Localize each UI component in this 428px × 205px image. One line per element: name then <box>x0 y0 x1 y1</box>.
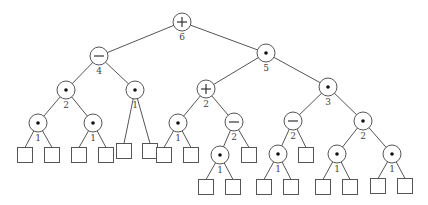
operator-node-dot: 1 <box>269 145 287 174</box>
leaf-square <box>45 148 60 163</box>
operator-node-plus: 6 <box>173 13 191 42</box>
dot-icon <box>176 121 180 125</box>
dot-icon <box>91 121 95 125</box>
node-count-label: 6 <box>179 32 185 42</box>
node-count-label: 2 <box>63 100 69 110</box>
operator-node-dot: 1 <box>383 145 401 174</box>
tree-edge <box>266 53 328 87</box>
node-count-label: 1 <box>334 164 340 174</box>
node-count-label: 2 <box>290 131 296 141</box>
dot-icon <box>264 51 268 55</box>
leaf-square <box>18 148 33 163</box>
operator-node-dot: 2 <box>354 112 372 141</box>
tree-edge <box>206 53 266 89</box>
tree-edge <box>182 22 266 53</box>
leaf-square <box>343 180 358 195</box>
dot-icon <box>276 152 280 156</box>
node-count-label: 3 <box>325 97 331 107</box>
operator-node-dot: 5 <box>257 44 275 73</box>
dot-icon <box>36 121 40 125</box>
leaf-square <box>316 180 331 195</box>
operator-node-dot: 2 <box>57 81 75 110</box>
dot-icon <box>361 119 365 123</box>
leaf-square <box>299 148 314 163</box>
dot-icon <box>64 88 68 92</box>
node-count-label: 1 <box>35 133 41 143</box>
dot-icon <box>326 85 330 89</box>
leaf-square <box>157 148 172 163</box>
leaf-square <box>284 180 299 195</box>
operator-node-dot: 1 <box>29 114 47 143</box>
leaf-square <box>184 148 199 163</box>
tree-edge <box>99 22 182 56</box>
node-count-label: 2 <box>360 131 366 141</box>
operator-node-minus: 2 <box>284 112 302 141</box>
operator-node-dot: 1 <box>211 146 229 175</box>
node-count-label: 5 <box>263 63 269 73</box>
dot-icon <box>218 153 222 157</box>
operator-node-dot: 1 <box>84 114 102 143</box>
operator-node-dot: 3 <box>319 78 337 107</box>
leaf-square <box>99 148 114 163</box>
operator-node-plus: 2 <box>197 80 215 109</box>
expression-tree-diagram: 64521231112221111 <box>0 0 428 205</box>
node-count-label: 1 <box>90 133 96 143</box>
operator-node-dot: 1 <box>169 114 187 143</box>
leaf-square <box>398 179 413 194</box>
node-count-label: 1 <box>175 133 181 143</box>
leaf-square <box>226 180 241 195</box>
operator-node-dot: 1 <box>328 145 346 174</box>
dot-icon <box>390 152 394 156</box>
node-count-label: 1 <box>132 100 138 110</box>
dot-icon <box>335 152 339 156</box>
node-count-label: 1 <box>275 164 281 174</box>
leaf-square <box>371 179 386 194</box>
node-count-label: 1 <box>217 165 223 175</box>
dot-icon <box>133 88 137 92</box>
leaf-square <box>199 180 214 195</box>
node-count-label: 4 <box>96 66 102 76</box>
node-count-label: 2 <box>203 99 209 109</box>
leaf-square <box>72 148 87 163</box>
leaf-square <box>117 144 132 159</box>
leaf-square <box>143 144 158 159</box>
leaf-square <box>242 148 257 163</box>
operator-node-dot: 1 <box>126 81 144 110</box>
operator-node-minus: 4 <box>90 47 108 76</box>
node-count-label: 2 <box>231 132 237 142</box>
leaf-square <box>257 180 272 195</box>
node-count-label: 1 <box>389 164 395 174</box>
